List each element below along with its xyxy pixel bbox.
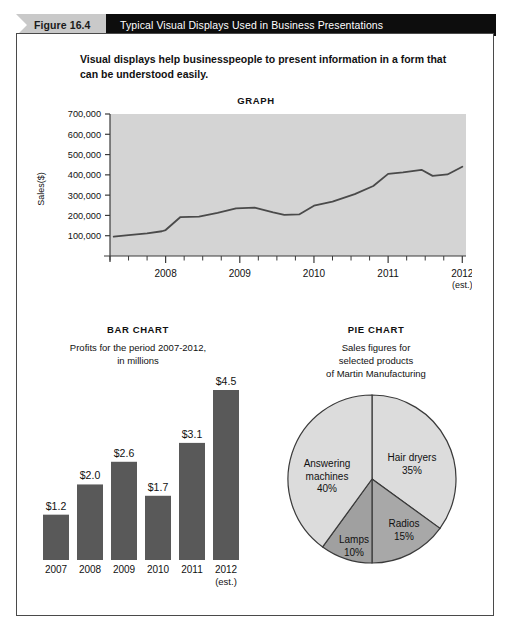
pie-caption-line-2: selected products: [261, 355, 491, 368]
bar: [77, 484, 103, 560]
line-graph-svg: 100,000200,000300,000400,000500,000600,0…: [42, 106, 472, 306]
bar: [213, 390, 239, 560]
bar-chart-section-title: BAR CHART: [23, 324, 253, 335]
bar-chart: $1.22007$2.02008$2.62009$1.72010$3.12011…: [25, 364, 253, 599]
pie-slice-label: 35%: [402, 465, 422, 476]
graph-y-tick-label: 200,000: [68, 211, 101, 221]
lead-paragraph: Visual displays help businesspeople to p…: [80, 52, 465, 82]
bar: [145, 496, 171, 560]
bar-chart-svg: $1.22007$2.02008$2.62009$1.72010$3.12011…: [25, 364, 253, 599]
pie-slice-label: 15%: [394, 531, 414, 542]
pie-slice-label: Answering: [304, 458, 351, 469]
bar-category-label: 2012: [215, 564, 238, 575]
figure-number-label: Figure 16.4: [34, 19, 91, 31]
line-graph: Sales($) 100,000200,000300,000400,000500…: [42, 106, 472, 306]
graph-y-tick-label: 700,000: [68, 109, 101, 119]
pie-chart-svg: Hair dryers35%Radios15%Lamps10%Answering…: [267, 384, 489, 594]
pie-slice-label: 40%: [317, 483, 337, 494]
graph-y-tick-label: 400,000: [68, 170, 101, 180]
graph-y-tick-label: 300,000: [68, 191, 101, 201]
graph-plot-area: [110, 114, 466, 256]
bar-value-label: $2.0: [80, 469, 101, 481]
bar-category-label: 2011: [181, 564, 203, 575]
graph-y-axis-label: Sales($): [36, 172, 46, 206]
graph-x-tick-label: 2008: [155, 268, 178, 279]
pie-slice-label: 10%: [344, 547, 364, 558]
pie-chart-section-title: PIE CHART: [261, 324, 491, 335]
bar-category-label: 2010: [147, 564, 170, 575]
bar-value-label: $3.1: [182, 428, 203, 440]
pie-caption-line-3: of Martin Manufacturing: [261, 368, 491, 381]
graph-y-tick-label: 600,000: [68, 130, 101, 140]
graph-x-tick-label: 2009: [229, 268, 252, 279]
bar-value-label: $2.6: [114, 447, 135, 459]
bar-category-label: 2007: [45, 564, 68, 575]
pie-slice-label: machines: [306, 471, 349, 482]
bar-category-label: 2009: [113, 564, 136, 575]
pie-slice-label: Radios: [388, 518, 419, 529]
bar-category-sublabel: (est.): [215, 576, 237, 587]
bar-caption-line-1: Profits for the period 2007-2012,: [23, 342, 253, 355]
pie-caption-line-1: Sales figures for: [261, 342, 491, 355]
bar-value-label: $1.2: [46, 500, 67, 512]
graph-x-tick-label: 2012: [451, 268, 472, 279]
graph-y-tick-label: 500,000: [68, 150, 101, 160]
pie-chart-caption: Sales figures forselected productsof Mar…: [261, 342, 491, 380]
graph-x-tick-label: 2010: [303, 268, 326, 279]
graph-y-tick-label: 100,000: [68, 231, 101, 241]
figure-body: Visual displays help businesspeople to p…: [16, 33, 494, 616]
pie-slice-label: Lamps: [339, 534, 369, 545]
pie-chart: Hair dryers35%Radios15%Lamps10%Answering…: [267, 384, 489, 594]
bar: [179, 443, 205, 560]
bar: [111, 462, 137, 560]
figure-container: Figure 16.4 Typical Visual Displays Used…: [0, 0, 512, 637]
bar-value-label: $1.7: [148, 481, 169, 493]
graph-x-tick-sublabel: (est.): [452, 280, 472, 290]
bar: [43, 515, 69, 560]
pie-slice-label: Hair dryers: [388, 452, 437, 463]
bar-value-label: $4.5: [216, 375, 237, 387]
graph-x-tick-label: 2011: [377, 268, 399, 279]
bar-category-label: 2008: [79, 564, 102, 575]
figure-title: Typical Visual Displays Used in Business…: [120, 19, 383, 31]
graph-section-title: GRAPH: [17, 95, 495, 106]
